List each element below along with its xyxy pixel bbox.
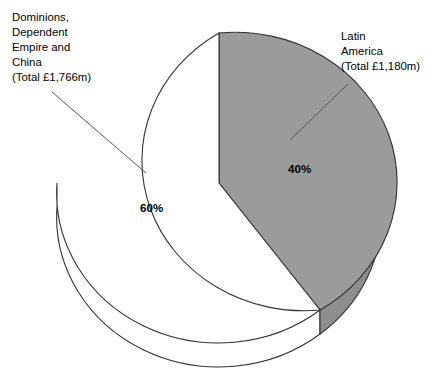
callout-left-line-5: (Total £1,766m) [12, 71, 91, 83]
callout-right-line-2: America [341, 45, 383, 57]
callout-left-line-2: Dependent [12, 26, 69, 38]
slice-percent-label-dominions: 60% [140, 201, 163, 214]
pie-chart-svg: Dominions, Dependent Empire and China (T… [0, 0, 439, 368]
callout-left-line-1: Dominions, [12, 11, 69, 23]
callout-label-dominions: Dominions, Dependent Empire and China (T… [12, 11, 91, 83]
callout-left-line-3: Empire and [12, 41, 70, 53]
slice-percent-label-latin-america: 40% [288, 162, 311, 175]
callout-right-line-3: (Total £1,180m) [341, 60, 420, 72]
leader-line-left [52, 92, 146, 173]
pie-chart-figure: Dominions, Dependent Empire and China (T… [0, 0, 439, 368]
callout-right-line-1: Latin [341, 30, 366, 42]
pie-top-face [142, 32, 397, 310]
callout-left-line-4: China [12, 56, 42, 68]
callout-label-latin-america: Latin America (Total £1,180m) [341, 30, 420, 72]
